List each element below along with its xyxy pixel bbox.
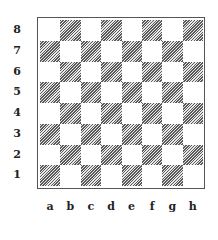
square-f4 [142, 103, 162, 124]
square-e1 [122, 165, 142, 186]
square-c4 [81, 103, 101, 124]
chessboard [40, 20, 203, 186]
square-c7 [81, 41, 101, 62]
square-e7 [122, 41, 142, 62]
square-g6 [162, 62, 182, 83]
file-label: b [60, 200, 80, 213]
square-h4 [183, 103, 203, 124]
square-b4 [60, 103, 80, 124]
square-b8 [60, 20, 80, 41]
square-g4 [162, 103, 182, 124]
file-label: h [183, 200, 203, 213]
square-g5 [162, 82, 182, 103]
square-a8 [40, 20, 60, 41]
square-d4 [101, 103, 121, 124]
square-d1 [101, 165, 121, 186]
square-e6 [122, 62, 142, 83]
square-a3 [40, 124, 60, 145]
square-a6 [40, 62, 60, 83]
square-g3 [162, 124, 182, 145]
square-h1 [183, 165, 203, 186]
square-c5 [81, 82, 101, 103]
square-h7 [183, 41, 203, 62]
square-b7 [60, 41, 80, 62]
square-e2 [122, 145, 142, 166]
square-e5 [122, 82, 142, 103]
square-d6 [101, 62, 121, 83]
file-label: e [122, 200, 142, 213]
square-g7 [162, 41, 182, 62]
square-c3 [81, 124, 101, 145]
square-b6 [60, 62, 80, 83]
rank-label: 2 [10, 145, 24, 165]
rank-label: 5 [10, 82, 24, 102]
rank-label: 3 [10, 124, 24, 144]
square-c2 [81, 145, 101, 166]
rank-label: 4 [10, 103, 24, 123]
square-a5 [40, 82, 60, 103]
square-h3 [183, 124, 203, 145]
square-e4 [122, 103, 142, 124]
square-a7 [40, 41, 60, 62]
square-e3 [122, 124, 142, 145]
square-a2 [40, 145, 60, 166]
square-c1 [81, 165, 101, 186]
square-f6 [142, 62, 162, 83]
square-b2 [60, 145, 80, 166]
square-d2 [101, 145, 121, 166]
rank-label: 8 [10, 20, 24, 40]
file-label: g [162, 200, 182, 213]
square-g2 [162, 145, 182, 166]
square-g1 [162, 165, 182, 186]
square-h5 [183, 82, 203, 103]
square-f8 [142, 20, 162, 41]
square-b1 [60, 165, 80, 186]
square-b3 [60, 124, 80, 145]
square-a4 [40, 103, 60, 124]
square-h8 [183, 20, 203, 41]
square-f3 [142, 124, 162, 145]
square-d3 [101, 124, 121, 145]
square-c6 [81, 62, 101, 83]
rank-label: 1 [10, 165, 24, 185]
square-e8 [122, 20, 142, 41]
file-label: f [142, 200, 162, 213]
square-c8 [81, 20, 101, 41]
square-h6 [183, 62, 203, 83]
square-h2 [183, 145, 203, 166]
square-f7 [142, 41, 162, 62]
square-b5 [60, 82, 80, 103]
square-g8 [162, 20, 182, 41]
square-d5 [101, 82, 121, 103]
file-label: c [81, 200, 101, 213]
square-f5 [142, 82, 162, 103]
square-f1 [142, 165, 162, 186]
square-f2 [142, 145, 162, 166]
rank-label: 6 [10, 62, 24, 82]
square-d8 [101, 20, 121, 41]
file-label: a [40, 200, 60, 213]
square-a1 [40, 165, 60, 186]
square-d7 [101, 41, 121, 62]
rank-label: 7 [10, 41, 24, 61]
file-label: d [101, 200, 121, 213]
